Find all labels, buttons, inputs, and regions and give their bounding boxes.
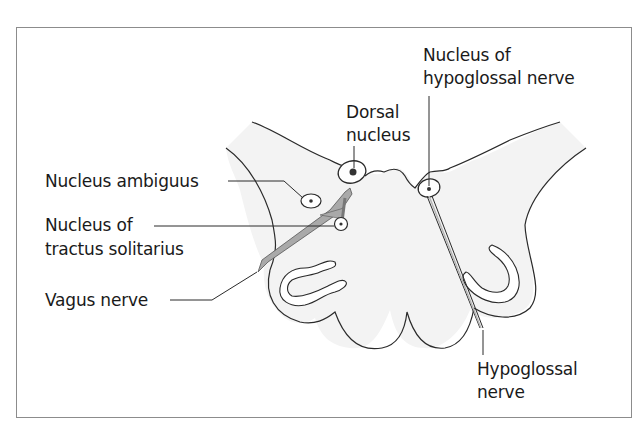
label-nucleus-tractus-line2: tractus solitarius bbox=[45, 238, 184, 260]
label-hypoglossal-nerve-line1: Hypoglossal bbox=[477, 358, 578, 380]
label-hypoglossal-nerve-line2: nerve bbox=[477, 381, 525, 403]
leader-vagus-nerve bbox=[170, 272, 257, 300]
label-hypoglossal-nucleus-line2: hypoglossal nerve bbox=[423, 67, 575, 89]
medulla-outline bbox=[226, 122, 586, 348]
label-vagus-nerve: Vagus nerve bbox=[45, 289, 148, 311]
label-nucleus-ambiguus: Nucleus ambiguus bbox=[45, 170, 199, 192]
label-dorsal-line1: Dorsal bbox=[346, 101, 399, 123]
label-dorsal-line2: nucleus bbox=[346, 124, 410, 146]
label-nucleus-tractus-line1: Nucleus of bbox=[45, 214, 132, 236]
label-hypoglossal-nucleus-line1: Nucleus of bbox=[423, 44, 510, 66]
dorsal-nucleus-center bbox=[350, 169, 357, 176]
